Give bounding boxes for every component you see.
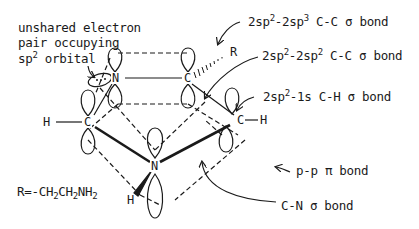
atom-n-top: N <box>111 72 120 84</box>
arrow-lone-pair <box>88 66 94 77</box>
atom-h-left: H <box>42 116 51 128</box>
label-r-definition: R=-CH2CH2NH2 <box>17 186 97 201</box>
n-h-wedge <box>134 170 152 196</box>
label-text: sp <box>18 51 32 66</box>
label-cc-sp2-sp3-bond: 2sp2-2sp3 C-C σ bond <box>248 14 388 29</box>
label-pp-pi-bond: p-p π bond <box>296 165 368 178</box>
subscript: 2 <box>92 191 97 201</box>
label-text: 2sp <box>262 48 284 63</box>
atom-c-left: C <box>83 116 92 128</box>
label-text: orbital <box>38 51 96 66</box>
atom-c-top-right: C <box>183 72 192 84</box>
atom-h-bottom: H <box>126 194 135 206</box>
p-orbital-n-center-lower <box>147 174 162 218</box>
label-lone-pair-line1: unshared electron <box>18 22 141 35</box>
arrow-cc-sp2-sp3 <box>218 22 240 44</box>
atom-r-group: R <box>229 46 238 58</box>
label-text: C-C σ bond <box>309 14 388 29</box>
c-n-bond-left <box>95 127 150 162</box>
pyrrole-orbital-diagram: N C R C H C H N H unshared electron pair… <box>0 0 419 229</box>
arrow-ch-sp2-1s <box>237 97 254 110</box>
n-c-bond-left <box>94 84 112 115</box>
label-cc-sp2-sp2-bond: 2sp2-2sp2 C-C σ bond <box>262 48 402 63</box>
label-text: 2sp <box>263 89 285 104</box>
label-lone-pair-line3: sp2 orbital <box>18 51 95 66</box>
label-text: -2sp <box>275 14 304 29</box>
atom-h-right: H <box>259 114 268 126</box>
label-cn-sigma-bond: C-N σ bond <box>281 200 353 213</box>
label-ch-sp2-1s-bond: 2sp2-1s C-H σ bond <box>263 89 391 104</box>
label-text: NH <box>78 184 92 199</box>
atom-c-right: C <box>236 114 245 126</box>
p-orbital-c-left-lower <box>81 128 95 154</box>
p-orbital-c-left-upper <box>81 90 95 116</box>
lone-pair-electrons <box>96 78 106 81</box>
arrow-cc-sp2-sp2 <box>205 57 258 98</box>
label-text: C-C σ bond <box>323 48 402 63</box>
label-text: 2sp <box>248 14 270 29</box>
p-orbital-c-top-upper <box>181 48 195 72</box>
p-orbital-n-top-upper <box>108 48 122 72</box>
arrow-pp-pi <box>276 167 290 172</box>
p-orbital-n-center-upper <box>147 128 162 158</box>
label-text: -2sp <box>289 48 318 63</box>
c-r-hashed-bond <box>194 57 222 78</box>
label-text: -1s C-H σ bond <box>290 89 391 104</box>
atom-n-center: N <box>150 160 159 172</box>
label-text: CH <box>58 184 72 199</box>
label-text: R=-CH <box>17 184 53 199</box>
label-lone-pair-line2: pair occupying <box>18 37 119 50</box>
